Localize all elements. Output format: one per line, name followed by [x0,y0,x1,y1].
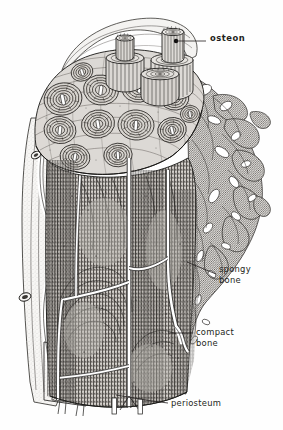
label-periosteum: periosteum [171,398,221,409]
osteon-cylinder-short [141,68,179,106]
bone-structure-figure: osteon spongybone compactbone periosteum [0,0,283,430]
label-spongy-bone: spongybone [219,264,251,285]
label-compact-bone: compactbone [196,327,234,348]
label-spongy-bone-line2: bone [219,275,241,285]
label-osteon: osteon [210,33,245,44]
label-compact-bone-line2: bone [196,338,218,348]
compact-bone-shaft [46,158,198,410]
label-spongy-bone-line1: spongy [219,264,251,274]
label-compact-bone-line1: compact [196,327,234,337]
bone-illustration-svg [0,0,283,430]
